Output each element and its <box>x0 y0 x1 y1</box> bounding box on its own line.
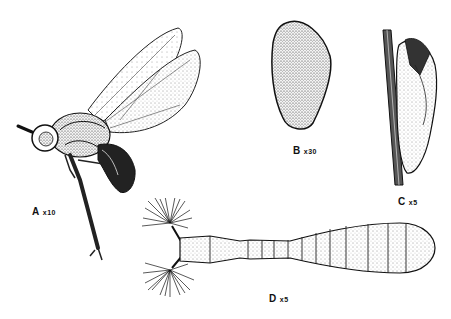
panel-b-egg <box>268 18 338 133</box>
panel-b-magnification: x30 <box>304 148 317 155</box>
larva-illustration <box>140 198 445 298</box>
panel-a-label: Ax10 <box>32 206 56 217</box>
pupa-illustration <box>375 25 445 190</box>
panel-a-magnification: x10 <box>43 209 56 216</box>
panel-c-pupa <box>375 25 445 190</box>
panel-d-larva <box>140 198 445 298</box>
panel-a-letter: A <box>32 206 40 217</box>
panel-d-letter: D <box>269 293 277 304</box>
panel-d-magnification: x5 <box>280 296 289 303</box>
panel-b-label: Bx30 <box>293 145 317 156</box>
panel-d-label: Dx5 <box>269 293 289 304</box>
panel-b-letter: B <box>293 145 301 156</box>
egg-illustration <box>268 18 338 133</box>
